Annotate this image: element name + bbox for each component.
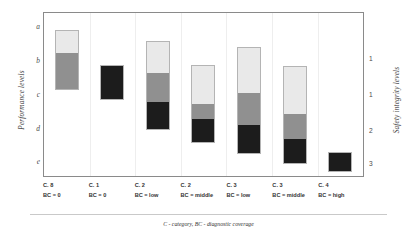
bar-group-bar-c2-bcmiddle [181, 13, 227, 176]
y-tick-left-c: c [20, 90, 40, 99]
bar-segment-dark [192, 119, 214, 142]
footnote-text: C - category, BC - diagnostic coverage [0, 221, 417, 227]
bar-segment-light [238, 48, 260, 93]
bar-segment-dark [284, 139, 306, 163]
category-line1: C. 4 [318, 181, 344, 191]
y-axis-right-title: Safety integrity levels [393, 45, 401, 155]
bar-segment-dark [329, 153, 351, 171]
bar-c2-bcmiddle[interactable] [191, 65, 215, 143]
category-line2: BC = low [135, 191, 159, 201]
category-line1: C. 2 [181, 181, 213, 191]
category-line2: BC = low [226, 191, 250, 201]
category-line1: C. 3 [272, 181, 304, 191]
category-label-bar-c3-bclow: C. 3BC = low [226, 181, 250, 200]
category-line1: C. 3 [226, 181, 250, 191]
bar-c8-bc0[interactable] [55, 30, 79, 90]
category-line1: C. 2 [135, 181, 159, 191]
category-line2: BC = 0 [89, 191, 107, 201]
bar-segment-medium [56, 53, 78, 89]
category-line1: C. 1 [89, 181, 107, 191]
y-tick-right-3: 3 [369, 160, 389, 167]
y-tick-left-d: d [20, 124, 40, 133]
y-tick-left-e: e [20, 157, 40, 166]
category-label-bar-c8-bc0: C. 8BC = 0 [43, 181, 61, 200]
category-label-bar-c1-bc0: C. 1BC = 0 [89, 181, 107, 200]
bar-group-bar-c3-bcmiddle [272, 13, 318, 176]
bar-segment-light [284, 67, 306, 114]
bar-group-bar-c8-bc0 [44, 13, 90, 176]
category-line2: BC = 0 [43, 191, 61, 201]
bar-segment-light [192, 66, 214, 104]
bar-segment-dark [147, 102, 169, 129]
category-line2: BC = high [318, 191, 344, 201]
bar-group-bar-c2-bclow [135, 13, 181, 176]
bar-c2-bclow[interactable] [146, 41, 170, 130]
x-axis-category-labels: C. 8BC = 0C. 1BC = 0C. 2BC = lowC. 2BC =… [43, 181, 364, 205]
bar-c1-bc0[interactable] [100, 65, 124, 100]
bar-segment-light [56, 31, 78, 53]
y-tick-right-1: 1 [369, 91, 389, 98]
y-tick-right-0: 1 [369, 55, 389, 62]
category-label-bar-c4-bchigh: C. 4BC = high [318, 181, 344, 200]
bar-segment-medium [284, 114, 306, 139]
bar-c3-bcmiddle[interactable] [283, 66, 307, 164]
bar-segment-light [147, 42, 169, 73]
bar-group-bar-c4-bchigh [318, 13, 364, 176]
category-label-bar-c2-bclow: C. 2BC = low [135, 181, 159, 200]
category-line2: BC = middle [272, 191, 304, 201]
bar-segment-dark [101, 66, 123, 99]
bar-group-bar-c3-bclow [226, 13, 272, 176]
bar-segment-medium [192, 104, 214, 119]
category-line2: BC = middle [181, 191, 213, 201]
category-line1: C. 8 [43, 181, 61, 191]
bar-group-bar-c1-bc0 [89, 13, 135, 176]
bar-c4-bchigh[interactable] [328, 152, 352, 172]
category-label-bar-c3-bcmiddle: C. 3BC = middle [272, 181, 304, 200]
footnote-divider [30, 214, 387, 215]
y-tick-right-2: 2 [369, 127, 389, 134]
bar-segment-dark [238, 125, 260, 153]
category-label-bar-c2-bcmiddle: C. 2BC = middle [181, 181, 213, 200]
performance-safety-integrity-chart: Performance levels Safety integrity leve… [0, 0, 417, 234]
plot-area [43, 12, 364, 177]
y-tick-left-a: a [20, 22, 40, 31]
bar-c3-bclow[interactable] [237, 47, 261, 154]
bar-segment-medium [147, 73, 169, 101]
y-tick-left-b: b [20, 56, 40, 65]
bar-segment-medium [238, 93, 260, 124]
